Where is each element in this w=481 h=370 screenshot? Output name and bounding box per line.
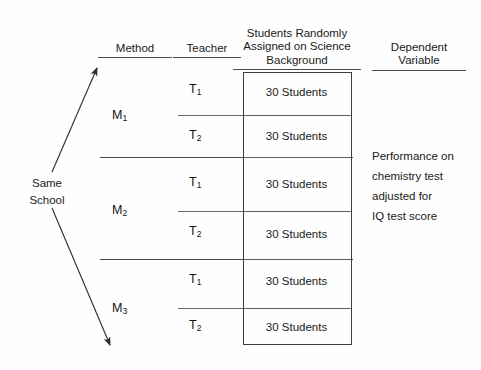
cell-divider-2: [244, 157, 349, 158]
teacher-label-m3-t2: T2: [189, 318, 201, 332]
arrow-down-right-icon: [52, 208, 110, 345]
column-header-teacher-rule: [173, 57, 241, 58]
method-label-m3: M3: [112, 301, 127, 315]
column-header-method-rule: [98, 57, 172, 58]
teacher-label-m1-t1: T1: [189, 82, 201, 96]
arrow-up-right-icon: [52, 68, 97, 172]
cell-m3-t1: 30 Students: [243, 275, 350, 287]
column-header-method-label: Method: [116, 42, 154, 54]
teacher-label-m2-t1: T1: [189, 175, 201, 189]
students-box: [243, 72, 352, 345]
column-header-dependent-variable-rule: [372, 70, 466, 71]
teacher-label-m3-t1: T1: [189, 272, 201, 286]
cell-m3-t2: 30 Students: [243, 321, 350, 333]
column-header-students-label: Students Randomly Assigned on Science Ba…: [243, 27, 350, 66]
cell-m2-t2: 30 Students: [243, 228, 350, 240]
method-label-m1: M1: [112, 108, 127, 122]
experimental-design-diagram: Method Teacher Students Randomly Assigne…: [0, 0, 481, 370]
cell-m2-t1: 30 Students: [243, 178, 350, 190]
cell-divider-4: [244, 259, 349, 260]
cell-divider-3: [244, 211, 349, 212]
column-header-method: Method: [98, 28, 172, 72]
column-header-dependent-variable: Dependent Variable: [372, 27, 466, 84]
source-label: Same School: [8, 175, 86, 209]
cell-divider-1: [244, 115, 349, 116]
cell-m1-t1: 30 Students: [243, 86, 350, 98]
teacher-label-m2-t2: T2: [189, 224, 201, 238]
cell-divider-5: [244, 308, 349, 309]
teacher-label-m1-t2: T2: [189, 128, 201, 142]
method-label-m2: M2: [112, 203, 127, 217]
column-header-teacher-label: Teacher: [187, 42, 228, 54]
column-header-students-rule: [233, 69, 361, 70]
column-header-teacher: Teacher: [173, 28, 241, 72]
cell-m1-t2: 30 Students: [243, 130, 350, 142]
column-header-dependent-variable-label: Dependent Variable: [391, 41, 447, 67]
dependent-variable-description: Performance on chemistry test adjusted f…: [372, 146, 476, 226]
